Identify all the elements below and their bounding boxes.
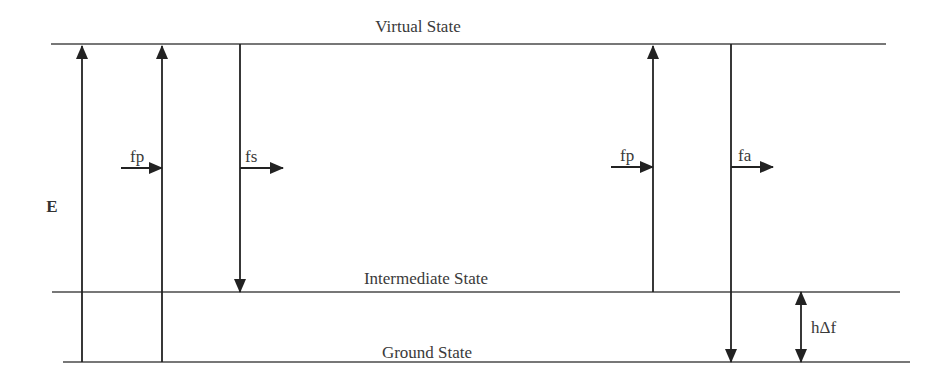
- photon-label-fs: fs: [245, 147, 257, 166]
- photon-antistokes: fa: [731, 146, 773, 167]
- level-virtual: Virtual State: [51, 17, 886, 44]
- photon-label-fp-left: fp: [130, 147, 144, 166]
- photon-pump-right: fp: [611, 146, 653, 167]
- level-label-virtual: Virtual State: [375, 17, 460, 36]
- photon-label-fa: fa: [738, 146, 752, 165]
- energy-level-diagram: Virtual State Intermediate State Ground …: [0, 0, 950, 385]
- photon-label-fp-right: fp: [620, 146, 634, 165]
- energy-axis-label: E: [46, 197, 57, 216]
- level-ground: Ground State: [63, 343, 910, 362]
- photon-stokes: fs: [240, 147, 283, 168]
- level-label-intermediate: Intermediate State: [364, 269, 488, 288]
- level-intermediate: Intermediate State: [52, 269, 900, 292]
- energy-gap-label: hΔf: [811, 318, 836, 337]
- photon-pump-left: fp: [121, 147, 162, 168]
- level-label-ground: Ground State: [382, 343, 472, 362]
